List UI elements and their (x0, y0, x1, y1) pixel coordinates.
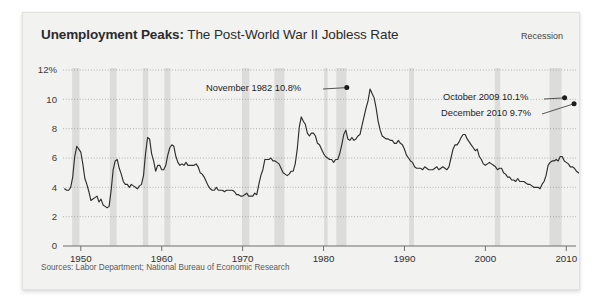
chart-plot-area: 024681012%1950196019701980199020002010 (23, 13, 579, 289)
recession-band-8 (409, 68, 414, 246)
recession-band-0 (72, 68, 79, 246)
y-axis-label-4: 4 (52, 182, 58, 193)
chart-card: Unemployment Peaks: The Post-World War I… (22, 12, 580, 290)
marker-peak-1982 (344, 85, 349, 90)
recession-band-4 (242, 68, 249, 246)
annotation-peak-2009: October 2009 10.1% (443, 92, 528, 102)
marker-peak-2009 (562, 95, 567, 100)
y-axis-label-8: 8 (52, 123, 57, 134)
y-axis-label-0: 0 (52, 240, 57, 251)
sources-note: Sources: Labor Department; National Bure… (41, 263, 289, 272)
annotation-peak-1982: November 1982 10.8% (206, 83, 301, 93)
annotation-peak-2010: December 2010 9.7% (441, 108, 531, 118)
y-axis-label-10: 10 (46, 94, 57, 105)
y-axis-label-2: 2 (52, 211, 57, 222)
unemployment-line-chart: 024681012%1950196019701980199020002010 (23, 13, 579, 289)
unemployment-rate-line (65, 89, 579, 208)
y-axis-label-12: 12% (38, 64, 58, 75)
x-axis-label-1980: 1980 (313, 253, 335, 264)
recession-band-1 (110, 68, 117, 246)
recession-band-5 (274, 68, 284, 246)
x-axis-label-2010: 2010 (555, 253, 577, 264)
recession-band-7 (336, 68, 346, 246)
x-axis-label-2000: 2000 (474, 253, 496, 264)
y-axis-label-6: 6 (52, 152, 57, 163)
marker-peak-2010 (572, 101, 577, 106)
x-axis-label-1990: 1990 (394, 253, 416, 264)
